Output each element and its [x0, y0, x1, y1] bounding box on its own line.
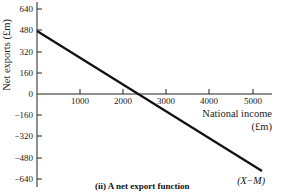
svg-text:160: 160 — [20, 68, 34, 78]
svg-text:1000: 1000 — [71, 96, 90, 106]
net-export-chart: 640 480 320 160 0 −160 −320 −480 −640 10… — [0, 0, 281, 192]
x-ticks — [80, 89, 253, 94]
x-tick-labels: 1000 2000 3000 4000 5000 — [71, 96, 263, 106]
svg-text:−480: −480 — [14, 153, 33, 163]
x-axis-title-line1: National income — [202, 108, 272, 119]
svg-text:−160: −160 — [14, 110, 33, 120]
svg-text:4000: 4000 — [200, 96, 219, 106]
svg-text:3000: 3000 — [157, 96, 176, 106]
svg-text:5000: 5000 — [244, 96, 263, 106]
svg-text:−640: −640 — [14, 174, 33, 184]
x-axis-title-line2: (£m) — [252, 121, 273, 133]
svg-text:480: 480 — [20, 25, 34, 35]
chart-caption: (ii) A net export function — [95, 181, 190, 191]
y-tick-labels: 640 480 320 160 0 −160 −320 −480 −640 — [14, 4, 33, 184]
svg-text:0: 0 — [29, 89, 34, 99]
y-axis-title: Net exports (£m) — [1, 19, 13, 91]
svg-text:−320: −320 — [14, 131, 33, 141]
svg-text:2000: 2000 — [114, 96, 133, 106]
series-label: (X−M) — [237, 175, 266, 187]
svg-text:320: 320 — [20, 47, 34, 57]
svg-text:640: 640 — [20, 4, 34, 14]
